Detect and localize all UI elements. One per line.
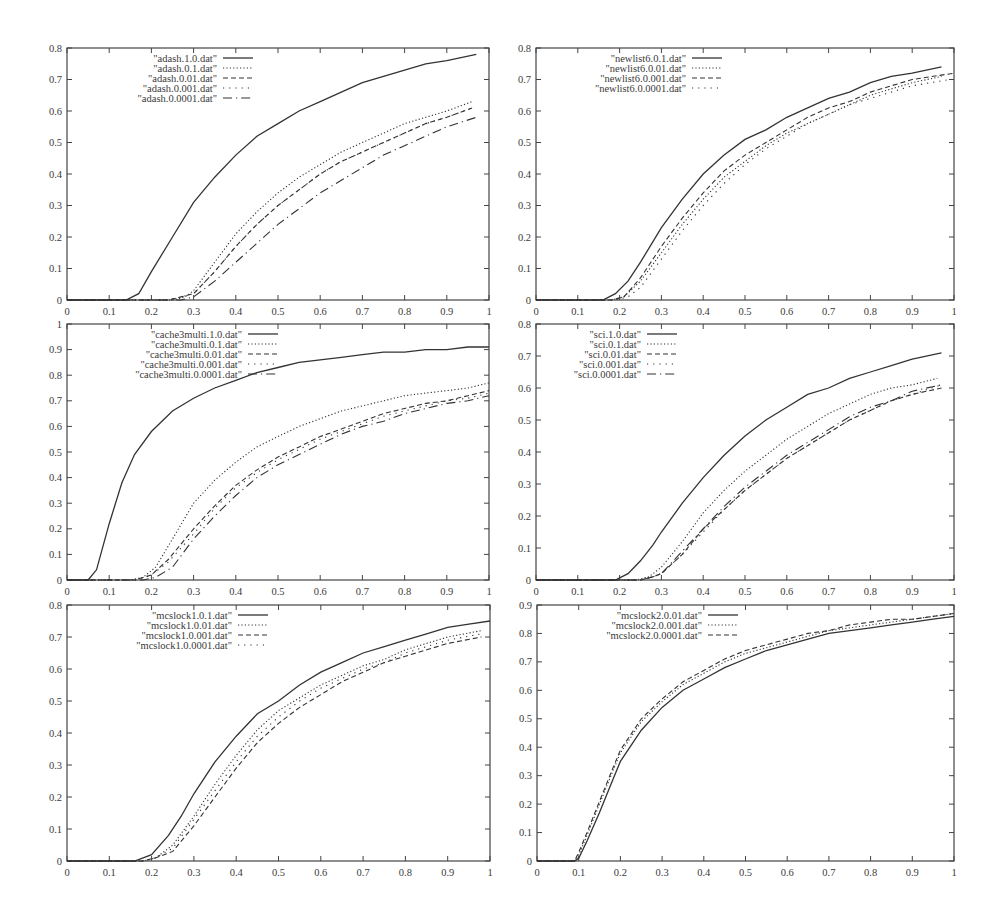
series-line-2	[536, 378, 937, 580]
x-tick-label: 0.3	[187, 586, 200, 597]
x-tick-label: 0.4	[230, 867, 244, 878]
x-tick-label: 0.3	[187, 867, 200, 878]
legend-label: "mcslock2.0.0001.dat"	[606, 630, 702, 641]
series-line-3	[536, 388, 942, 580]
y-tick-label: 0.2	[49, 523, 62, 534]
x-tick-label: 0.9	[440, 306, 453, 317]
series-line-1	[537, 616, 954, 861]
y-tick-label: 0.6	[49, 106, 62, 117]
x-tick-label: 0.8	[399, 867, 412, 878]
y-tick-label: 0.7	[519, 656, 532, 667]
legend-label: "sci.0.0001.dat"	[574, 369, 641, 380]
y-tick-label: 0.8	[518, 43, 531, 54]
y-tick-label: 0.1	[49, 263, 62, 274]
chart-panel-2: 00.10.20.30.40.50.60.70.80.9100.10.20.30…	[518, 43, 957, 318]
x-tick-label: 0.7	[822, 867, 835, 878]
y-tick-label: 0.5	[49, 447, 62, 458]
plot-frame	[67, 605, 490, 861]
y-tick-label: 0.5	[49, 696, 62, 707]
y-tick-label: 0.7	[49, 395, 62, 406]
x-tick-label: 0.2	[145, 306, 158, 317]
series-line-4	[536, 80, 950, 301]
x-tick-label: 0.7	[822, 586, 835, 597]
x-tick-label: 1	[486, 586, 491, 597]
y-tick-label: 0.4	[518, 447, 532, 458]
chart-panel-3: 00.10.20.30.40.50.60.70.80.9100.10.20.30…	[49, 319, 492, 598]
x-tick-label: 0.7	[357, 867, 370, 878]
x-tick-label: 0.3	[656, 867, 669, 878]
x-tick-label: 0.6	[314, 586, 327, 597]
series-line-3	[536, 73, 954, 300]
y-tick-label: 0.7	[518, 351, 531, 362]
y-tick-label: 0.7	[49, 74, 62, 85]
x-tick-label: 0.3	[655, 586, 668, 597]
y-tick-label: 0.3	[519, 770, 532, 781]
y-tick-label: 0.6	[49, 421, 62, 432]
series-line-1	[67, 621, 490, 861]
x-tick-label: 0	[64, 867, 69, 878]
x-tick-label: 0.9	[906, 586, 919, 597]
x-tick-label: 0.5	[739, 867, 752, 878]
series-line-2	[536, 76, 942, 300]
x-tick-label: 0.8	[864, 867, 877, 878]
series-line-4	[67, 634, 482, 861]
x-tick-label: 0.1	[103, 586, 116, 597]
y-tick-label: 0.5	[49, 137, 62, 148]
plot-frame	[67, 48, 489, 300]
x-tick-label: 0.5	[271, 306, 284, 317]
y-tick-label: 0.8	[49, 370, 62, 381]
y-tick-label: 0	[57, 856, 62, 867]
y-tick-label: 0	[57, 575, 62, 586]
x-tick-label: 0.5	[272, 867, 285, 878]
series-line-5	[67, 396, 489, 580]
x-tick-label: 0.1	[571, 306, 584, 317]
y-tick-label: 0.3	[518, 200, 531, 211]
y-tick-label: 0	[526, 575, 531, 586]
x-tick-label: 0.2	[613, 586, 626, 597]
x-tick-label: 0.1	[103, 306, 116, 317]
y-tick-label: 0.4	[49, 728, 63, 739]
y-tick-label: 0.8	[518, 319, 531, 330]
x-tick-label: 1	[951, 306, 956, 317]
series-line-2	[67, 102, 472, 300]
y-tick-label: 0.7	[49, 632, 62, 643]
series-line-1	[536, 353, 942, 580]
x-tick-label: 0.6	[781, 867, 794, 878]
y-tick-label: 0.1	[49, 549, 62, 560]
x-tick-label: 0.1	[571, 586, 584, 597]
x-tick-label: 0.8	[398, 306, 411, 317]
x-tick-label: 0.9	[906, 867, 919, 878]
x-tick-label: 0.6	[314, 867, 327, 878]
y-tick-label: 0.2	[49, 792, 62, 803]
x-tick-label: 0.7	[822, 306, 835, 317]
x-tick-label: 0.2	[145, 867, 158, 878]
series-line-4	[67, 393, 489, 580]
y-tick-label: 0.6	[519, 685, 532, 696]
x-tick-label: 0.1	[572, 867, 585, 878]
y-tick-label: 0.6	[518, 106, 531, 117]
y-tick-label: 0.1	[49, 824, 62, 835]
x-tick-label: 0	[534, 867, 539, 878]
legend-label: "cache3multi.0.0001.dat"	[135, 369, 242, 380]
series-line-5	[536, 385, 942, 580]
y-tick-label: 0.4	[518, 169, 532, 180]
y-tick-label: 0.9	[519, 600, 532, 611]
legend-label: "mcslock1.0.0001.dat"	[136, 640, 232, 651]
y-tick-label: 0.7	[518, 74, 531, 85]
x-tick-label: 0.5	[738, 306, 751, 317]
y-tick-label: 0.4	[519, 742, 533, 753]
y-tick-label: 0.4	[49, 472, 63, 483]
x-tick-label: 0.4	[229, 586, 243, 597]
series-line-1	[536, 67, 942, 300]
x-tick-label: 0.4	[229, 306, 243, 317]
x-tick-label: 0.6	[780, 586, 793, 597]
y-tick-label: 0.8	[519, 628, 532, 639]
y-tick-label: 0.1	[518, 263, 531, 274]
chart-panel-1: 00.10.20.30.40.50.60.70.80.9100.10.20.30…	[49, 43, 492, 318]
x-tick-label: 0.2	[145, 586, 158, 597]
x-tick-label: 0.1	[103, 867, 116, 878]
x-tick-label: 1	[487, 867, 492, 878]
x-tick-label: 0.5	[271, 586, 284, 597]
x-tick-label: 0.4	[697, 586, 711, 597]
y-tick-label: 0.6	[518, 383, 531, 394]
